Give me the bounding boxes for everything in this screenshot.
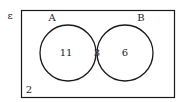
set-a-label: A — [48, 13, 55, 23]
set-b-label: B — [137, 13, 144, 23]
universal-set-label: ε — [7, 11, 12, 21]
region-outside-value: 2 — [26, 85, 32, 95]
region-only-b-value: 6 — [122, 48, 128, 58]
region-intersection-value: 3 — [94, 48, 100, 58]
region-only-a-value: 11 — [60, 48, 73, 58]
